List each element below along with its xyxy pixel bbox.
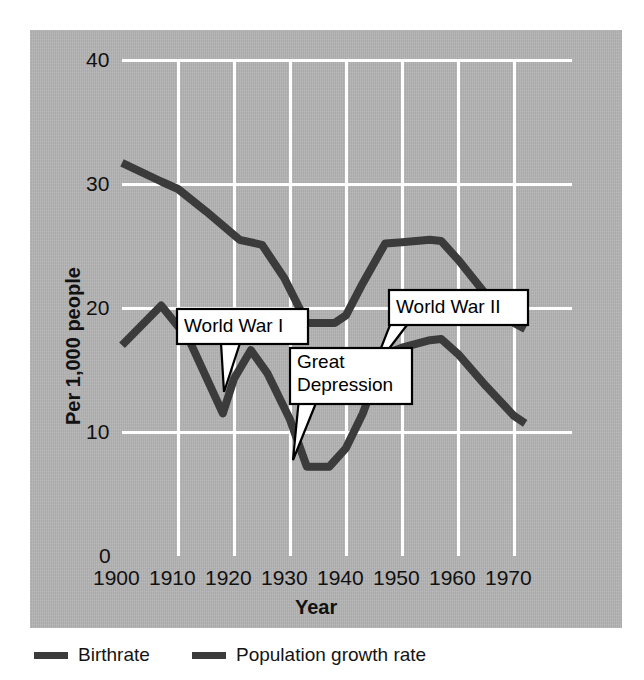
y-axis-title: Per 1,000 people (62, 267, 85, 425)
x-axis-title: Year (295, 596, 337, 619)
x-tick-label-1920: 1920 (205, 566, 252, 590)
x-tick-label-1900: 1900 (93, 566, 140, 590)
legend-label-birthrate: Birthrate (78, 644, 150, 666)
legend-swatch-population-growth (192, 652, 226, 659)
y-tick-label-40: 40 (86, 48, 109, 72)
x-tick-label-1940: 1940 (317, 566, 364, 590)
x-tick-label-1910: 1910 (149, 566, 196, 590)
legend-label-population-growth: Population growth rate (236, 644, 426, 666)
legend-item-birthrate: Birthrate (34, 641, 150, 669)
annotation-world-war-2: World War II (396, 296, 501, 317)
chart-figure: World War I Great Depression World War I… (0, 0, 644, 680)
annotation-great-depression-line2: Depression (297, 374, 393, 395)
great-depression-pointer (293, 398, 318, 460)
legend-swatch-birthrate (34, 652, 68, 659)
y-tick-label-0: 0 (99, 544, 111, 568)
chart-legend: Birthrate Population growth rate (30, 641, 622, 673)
x-tick-label-1970: 1970 (485, 566, 532, 590)
y-tick-label-20: 20 (86, 296, 109, 320)
annotation-great-depression-line1: Great (297, 351, 345, 372)
x-tick-label-1930: 1930 (261, 566, 308, 590)
x-tick-label-1960: 1960 (429, 566, 476, 590)
y-tick-label-10: 10 (86, 420, 109, 444)
legend-item-population-growth: Population growth rate (192, 641, 426, 669)
x-tick-label-1950: 1950 (373, 566, 420, 590)
annotation-world-war-1: World War I (184, 315, 283, 336)
y-tick-label-30: 30 (86, 172, 109, 196)
